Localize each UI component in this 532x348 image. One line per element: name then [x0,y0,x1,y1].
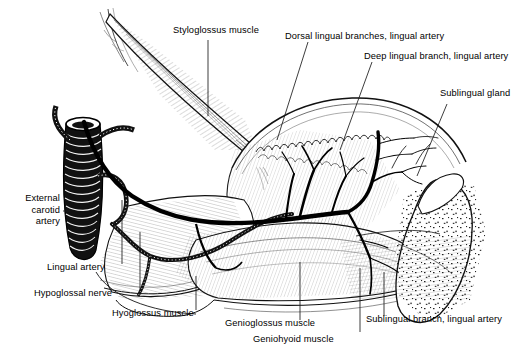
label-sublingual-branch: Sublingual branch, lingual artery [366,314,502,325]
label-external-carotid-line1: External [25,193,60,203]
sublingual-fold [338,230,478,304]
label-deep-lingual-branch: Deep lingual branch, lingual artery [364,51,508,62]
anatomical-figure: Styloglossus muscle Dorsal lingual branc… [0,0,532,348]
label-genioglossus-muscle: Genioglossus muscle [225,318,315,329]
label-lingual-artery: Lingual artery [47,262,105,273]
label-hyoglossus-muscle: Hyoglossus muscle [112,308,194,319]
label-external-carotid-line2: carotid [31,205,60,215]
label-sublingual-gland: Sublingual gland [440,88,510,99]
label-external-carotid-line3: artery [36,216,60,226]
label-external-carotid-artery: External carotid artery [0,193,60,228]
label-hypoglossal-nerve: Hypoglossal nerve [34,288,112,299]
label-geniohyoid-muscle: Geniohyoid muscle [253,334,334,345]
label-dorsal-lingual-branches: Dorsal lingual branches, lingual artery [285,31,444,42]
label-styloglossus-muscle: Styloglossus muscle [173,25,259,36]
